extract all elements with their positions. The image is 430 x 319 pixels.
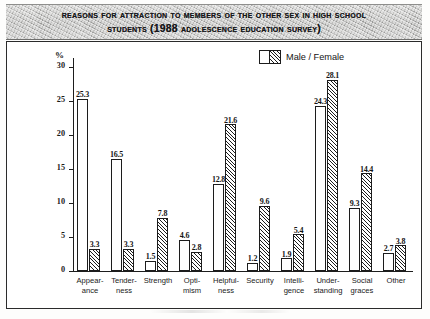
bar-value-label: 1.9 <box>282 250 291 259</box>
bar-value-label: 5.4 <box>294 226 303 235</box>
legend-label: Male / Female <box>286 52 344 62</box>
chart-title-banner: Reasons for Attraction to Members of the… <box>6 4 422 40</box>
bar-value-label: 12.8 <box>212 175 225 184</box>
x-axis-label: Socialgraces <box>345 276 379 296</box>
y-axis-tick: 10 <box>69 203 73 204</box>
x-axis-label: Security <box>243 276 277 286</box>
y-axis-tick-label: 0 <box>61 265 65 274</box>
bar-male: 4.6 <box>179 240 190 271</box>
chart-figure: Reasons for Attraction to Members of the… <box>0 0 430 319</box>
bar-female: 28.1 <box>327 80 338 271</box>
bar-female: 3.3 <box>123 249 134 271</box>
x-axis-label: Opti-mism <box>175 276 209 296</box>
scan-artifact <box>150 310 290 313</box>
bar-value-label: 7.8 <box>158 209 167 218</box>
y-axis-tick-label: 25 <box>57 95 65 104</box>
x-axis-label-line: ness <box>107 286 141 296</box>
bar-value-label: 3.3 <box>90 240 99 249</box>
x-axis-label-line: Social <box>345 276 379 286</box>
bar-female: 3.8 <box>395 245 406 271</box>
x-axis-label: Strength <box>141 276 175 286</box>
x-axis-label-line: Other <box>379 276 413 286</box>
bar-male: 1.5 <box>145 261 156 271</box>
x-axis-label-line: Tender- <box>107 276 141 286</box>
bar-value-label: 3.3 <box>124 240 133 249</box>
chart-plot-frame: % Male / Female 05101520253025.33.316.53… <box>6 41 422 309</box>
x-axis-label: Tender-ness <box>107 276 141 296</box>
y-axis-tick: 25 <box>69 101 73 102</box>
bar-female: 21.6 <box>225 124 236 271</box>
y-axis-tick-label: 5 <box>61 231 65 240</box>
bar-group: 2.73.8 <box>381 67 415 271</box>
y-axis-tick: 20 <box>69 135 73 136</box>
y-axis-tick: 15 <box>69 169 73 170</box>
y-axis-unit-label: % <box>55 50 64 60</box>
bar-male: 1.9 <box>281 258 292 271</box>
x-axis-label-line: graces <box>345 286 379 296</box>
bar-group: 1.95.4 <box>279 67 313 271</box>
x-axis-labels: Appear-anceTender-nessStrengthOpti-mismH… <box>73 276 413 306</box>
bar-male: 1.2 <box>247 263 258 271</box>
bar-male: 9.3 <box>349 208 360 271</box>
y-axis-tick-label: 15 <box>57 163 65 172</box>
bar-female: 7.8 <box>157 218 168 271</box>
x-axis-label: Under-standing <box>311 276 345 296</box>
bar-value-label: 28.1 <box>326 71 339 80</box>
y-axis-tick: 5 <box>69 237 73 238</box>
y-axis-tick-label: 30 <box>57 61 65 70</box>
bar-group: 12.821.6 <box>211 67 245 271</box>
bar-female: 3.3 <box>89 249 100 271</box>
bar-value-label: 3.8 <box>396 237 405 246</box>
x-axis-label-line: Intelli- <box>277 276 311 286</box>
x-axis-label-line: Under- <box>311 276 345 286</box>
x-axis-label: Helpful-ness <box>209 276 243 296</box>
bar-female: 9.6 <box>259 206 270 271</box>
bar-male: 24.3 <box>315 106 326 271</box>
x-axis-label-line: Appear- <box>73 276 107 286</box>
bar-group: 9.314.4 <box>347 67 381 271</box>
x-axis-label-line: Strength <box>141 276 175 286</box>
bar-value-label: 14.4 <box>360 165 373 174</box>
y-axis-tick-label: 20 <box>57 129 65 138</box>
bar-value-label: 21.6 <box>224 116 237 125</box>
bar-male: 12.8 <box>213 184 224 271</box>
x-axis-label-line: Security <box>243 276 277 286</box>
bar-male: 16.5 <box>111 159 122 271</box>
bar-group: 4.62.8 <box>177 67 211 271</box>
bar-group: 25.33.3 <box>75 67 109 271</box>
bar-value-label: 9.3 <box>350 199 359 208</box>
bar-value-label: 25.3 <box>76 90 89 99</box>
bar-female: 2.8 <box>191 252 202 271</box>
y-axis-tick: 0 <box>69 271 73 272</box>
legend-swatch-female <box>270 50 281 64</box>
plot-area: 05101520253025.33.316.53.31.57.84.62.812… <box>73 68 413 272</box>
bar-value-label: 2.7 <box>384 244 393 253</box>
x-axis-label: Appear-ance <box>73 276 107 296</box>
legend-swatch-male <box>259 50 270 64</box>
x-axis-label-line: ance <box>73 286 107 296</box>
bar-group: 16.53.3 <box>109 67 143 271</box>
bar-value-label: 9.6 <box>260 197 269 206</box>
page-title-line-2: Students (1988 Adolescence Education Sur… <box>107 22 321 36</box>
x-axis-label-line: Helpful- <box>209 276 243 286</box>
bar-value-label: 2.8 <box>192 243 201 252</box>
x-axis-label: Intelli-gence <box>277 276 311 296</box>
bar-female: 5.4 <box>293 234 304 271</box>
x-axis-label-line: standing <box>311 286 345 296</box>
x-axis-label-line: Opti- <box>175 276 209 286</box>
x-axis-label-line: ness <box>209 286 243 296</box>
y-axis-tick-label: 10 <box>57 197 65 206</box>
bar-value-label: 24.3 <box>314 97 327 106</box>
bar-group: 24.328.1 <box>313 67 347 271</box>
x-axis-label: Other <box>379 276 413 286</box>
chart-legend: Male / Female <box>259 50 344 64</box>
bar-value-label: 4.6 <box>180 231 189 240</box>
bar-group: 1.29.6 <box>245 67 279 271</box>
bar-male: 2.7 <box>383 253 394 271</box>
bar-female: 14.4 <box>361 173 372 271</box>
x-axis-label-line: mism <box>175 286 209 296</box>
y-axis-tick: 30 <box>69 67 73 68</box>
page-title-line-1: Reasons for Attraction to Members of the… <box>62 8 366 22</box>
bar-male: 25.3 <box>77 99 88 271</box>
y-axis-line <box>73 58 74 272</box>
